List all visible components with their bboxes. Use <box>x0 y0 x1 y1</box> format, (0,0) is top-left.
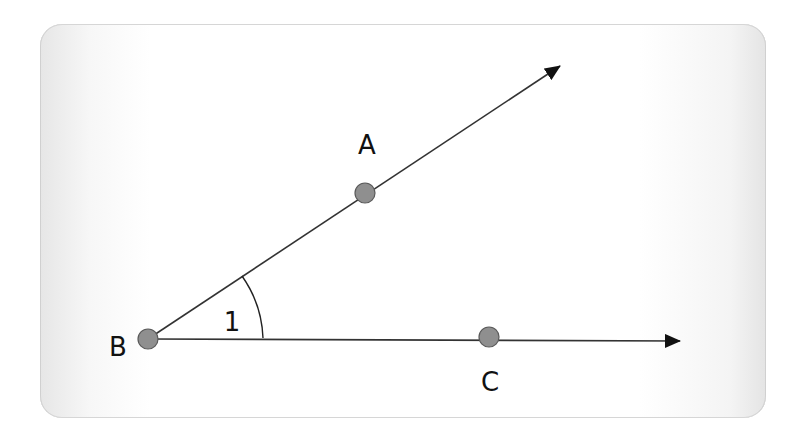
point-b <box>138 329 158 349</box>
angle-diagram: A B C 1 <box>0 0 801 442</box>
label-b: B <box>109 332 127 362</box>
point-c <box>479 327 499 347</box>
label-a: A <box>358 130 376 160</box>
point-a <box>355 183 375 203</box>
ray-ba <box>148 66 560 339</box>
ray-bc <box>148 339 680 341</box>
label-c: C <box>481 367 499 397</box>
angle-label: 1 <box>224 307 241 337</box>
angle-arc <box>242 276 263 338</box>
